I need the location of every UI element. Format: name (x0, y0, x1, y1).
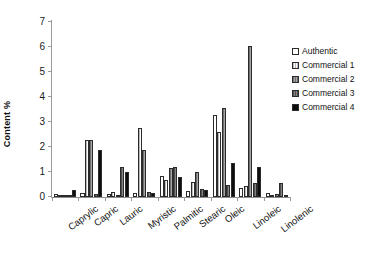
bar (200, 189, 204, 197)
bar (107, 194, 111, 197)
bar (217, 132, 221, 197)
bar (244, 186, 248, 197)
bar-chart: Content % 01234567 CaprylicCapricLauricM… (0, 0, 368, 262)
bar (98, 150, 102, 197)
bar (169, 168, 173, 198)
legend-label: Commercial 2 (302, 74, 354, 84)
bar-group (211, 22, 237, 197)
legend-item: Commercial 3 (292, 86, 366, 100)
legend-item: Authentic (292, 44, 366, 58)
legend-item: Commercial 1 (292, 58, 366, 72)
bar (85, 140, 89, 197)
bar (80, 193, 84, 197)
x-tick-label: Lauric (117, 203, 144, 227)
legend-label: Commercial 3 (302, 88, 354, 98)
bar (125, 172, 129, 197)
bar (116, 195, 120, 198)
bar-group (105, 22, 131, 197)
bar (120, 167, 124, 197)
bar-group (52, 22, 78, 197)
bar (111, 192, 115, 198)
bar (142, 150, 146, 197)
bar (54, 194, 58, 197)
x-axis-line (51, 197, 291, 198)
bar-group (131, 22, 157, 197)
bar-group (237, 22, 263, 197)
bar (195, 172, 199, 197)
bar (191, 182, 195, 197)
x-tick-label: Oleic (222, 203, 246, 225)
bar-group (78, 22, 104, 197)
bar (226, 185, 230, 198)
x-tick-mark (237, 197, 238, 201)
legend-swatch (292, 62, 299, 69)
y-tick-label: 5 (0, 66, 52, 78)
bar (94, 194, 98, 197)
x-tick-mark (290, 197, 291, 201)
x-tick-mark (184, 197, 185, 201)
x-tick-mark (264, 197, 265, 201)
bar (72, 190, 76, 198)
x-tick-mark (52, 197, 53, 201)
legend-swatch (292, 104, 299, 111)
bar (213, 115, 217, 198)
legend-item: Commercial 2 (292, 72, 366, 86)
y-tick-label: 6 (0, 41, 52, 53)
x-tick-mark (105, 197, 106, 201)
legend-label: Commercial 1 (302, 60, 354, 70)
bar (58, 195, 62, 197)
bar (147, 192, 151, 198)
bar-group (158, 22, 184, 197)
x-tick-mark (158, 197, 159, 201)
x-tick-label: Myristic (145, 203, 177, 231)
bar (160, 176, 164, 197)
bar (279, 183, 283, 197)
x-tick-label: Linoleic (251, 203, 283, 231)
bar (275, 194, 279, 197)
bar (63, 195, 67, 197)
legend-swatch (292, 48, 299, 55)
bar (204, 190, 208, 197)
bar (164, 180, 168, 198)
bar (138, 128, 142, 198)
bar-group (184, 22, 210, 197)
legend-swatch (292, 76, 299, 83)
bar (151, 193, 155, 198)
x-tick-label: Linolenic (278, 203, 315, 234)
y-tick-label: 0 (0, 191, 52, 203)
bar (173, 167, 177, 198)
y-tick-label: 2 (0, 141, 52, 153)
bar (133, 193, 137, 197)
legend-label: Authentic (302, 46, 337, 56)
bar (186, 191, 190, 197)
bar (270, 195, 274, 198)
bar (222, 108, 226, 197)
bar (266, 193, 270, 197)
bar (248, 46, 252, 197)
y-tick-label: 4 (0, 91, 52, 103)
x-tick-mark (131, 197, 132, 201)
bar (257, 167, 261, 198)
bar (178, 177, 182, 198)
bar (67, 195, 71, 197)
bar (239, 188, 243, 197)
bar (253, 183, 257, 197)
bar-group (264, 22, 290, 197)
y-tick-label: 7 (0, 16, 52, 28)
bar (89, 140, 93, 198)
x-tick-mark (211, 197, 212, 201)
legend-label: Commercial 4 (302, 102, 354, 112)
y-tick-label: 1 (0, 166, 52, 178)
bar (231, 163, 235, 197)
x-tick-mark (78, 197, 79, 201)
plot-area (52, 22, 290, 197)
chart-legend: AuthenticCommercial 1Commercial 2Commerc… (292, 44, 366, 114)
legend-swatch (292, 90, 299, 97)
y-tick-label: 3 (0, 116, 52, 128)
legend-item: Commercial 4 (292, 100, 366, 114)
bar (284, 195, 288, 197)
